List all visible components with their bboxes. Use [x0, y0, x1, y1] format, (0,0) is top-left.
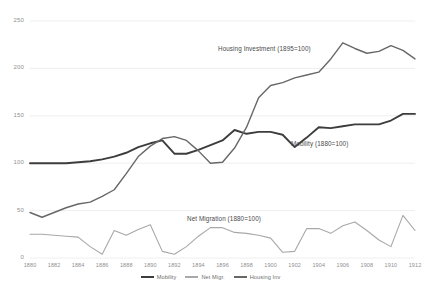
legend-item-net-migr[interactable]: Net Migr.	[185, 274, 224, 280]
annotation-mobility: Mobility (1880=100)	[291, 140, 348, 147]
series-line-housing-inv	[30, 43, 415, 217]
x-tick-1908: 1908	[354, 262, 380, 268]
legend-label: Mobility	[157, 274, 177, 280]
x-tick-1898: 1898	[234, 262, 260, 268]
x-tick-1904: 1904	[306, 262, 332, 268]
legend-label: Housing Inv	[250, 274, 281, 280]
x-tick-1882: 1882	[41, 262, 67, 268]
y-tick-200: 200	[0, 64, 24, 70]
legend-item-housing-inv[interactable]: Housing Inv	[234, 274, 281, 280]
y-tick-150: 150	[0, 112, 24, 118]
x-tick-1890: 1890	[137, 262, 163, 268]
series-lines	[30, 43, 415, 254]
x-tick-1884: 1884	[65, 262, 91, 268]
x-tick-1888: 1888	[113, 262, 139, 268]
x-tick-1886: 1886	[89, 262, 115, 268]
x-tick-1896: 1896	[210, 262, 236, 268]
legend-swatch-icon	[185, 276, 198, 277]
x-tick-1880: 1880	[17, 262, 43, 268]
legend-swatch-icon	[234, 276, 247, 277]
x-tick-1902: 1902	[282, 262, 308, 268]
series-line-mobility	[30, 114, 415, 163]
y-tick-250: 250	[0, 17, 24, 23]
x-tick-1892: 1892	[161, 262, 187, 268]
x-tick-1894: 1894	[185, 262, 211, 268]
legend-item-mobility[interactable]: Mobility	[141, 274, 177, 280]
annotation-housing-investment: Housing Investment (1895=100)	[218, 45, 311, 52]
y-tick-0: 0	[0, 254, 24, 260]
annotation-net-migration: Net Migration (1880=100)	[187, 215, 261, 222]
x-tick-1900: 1900	[258, 262, 284, 268]
x-tick-1910: 1910	[378, 262, 404, 268]
y-tick-50: 50	[0, 207, 24, 213]
x-tick-1912: 1912	[402, 262, 426, 268]
x-tick-1906: 1906	[330, 262, 356, 268]
chart-legend: MobilityNet Migr.Housing Inv	[0, 274, 421, 280]
legend-swatch-icon	[141, 276, 154, 278]
legend-label: Net Migr.	[201, 274, 224, 280]
y-tick-100: 100	[0, 159, 24, 165]
